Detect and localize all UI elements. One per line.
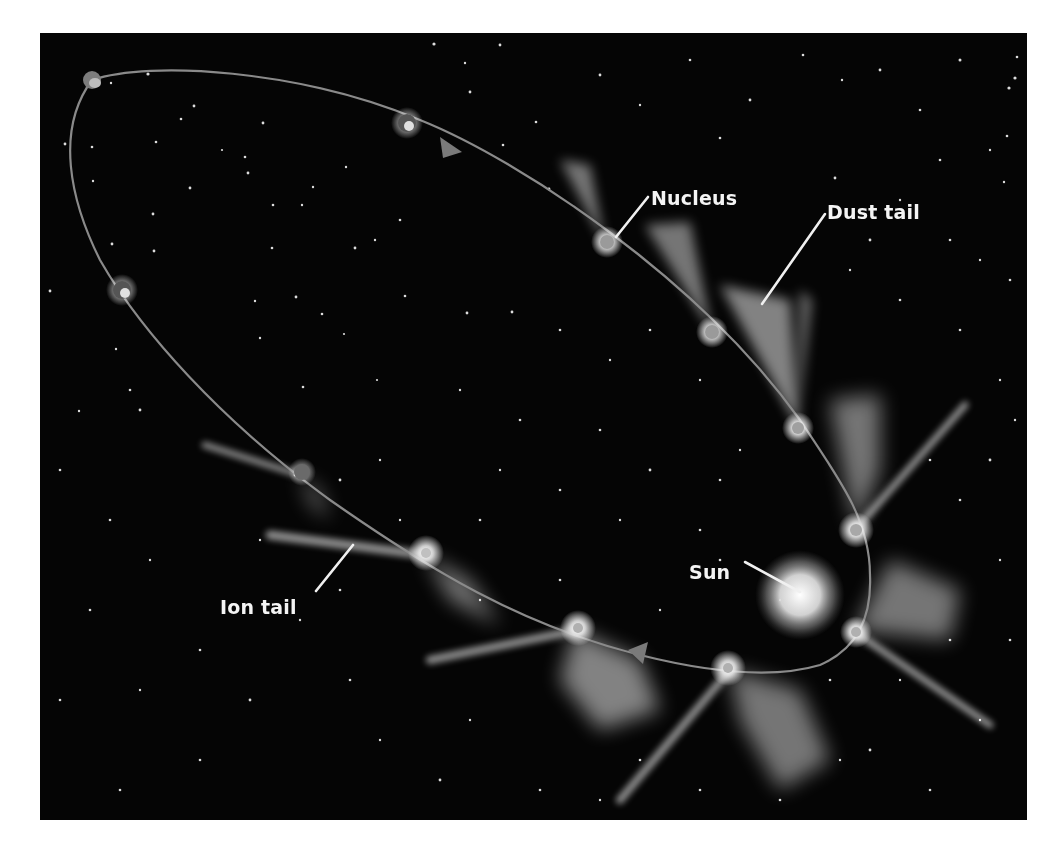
sun	[755, 550, 845, 640]
nucleus-label: Nucleus	[651, 187, 737, 209]
space-diagram-panel: Nucleus Dust tail Sun Ion tail	[40, 33, 1027, 820]
ion-tail-leader-line	[316, 545, 353, 591]
sun-label: Sun	[689, 561, 730, 583]
comet-orbit-diagram	[40, 33, 1027, 820]
dust-tail-label: Dust tail	[827, 201, 920, 223]
orbit-direction-arrow-top	[440, 137, 462, 158]
label-leader-lines	[316, 197, 825, 592]
ion-tail-label: Ion tail	[220, 596, 297, 618]
dust-tail-leader-line	[762, 214, 825, 304]
nucleus-leader-line	[616, 197, 648, 237]
